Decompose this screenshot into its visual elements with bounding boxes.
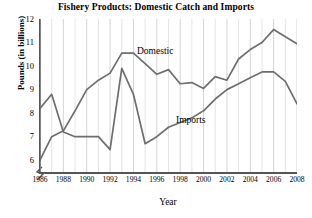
y-tick-label: 6 — [12, 156, 34, 165]
y-tick-label: 11 — [12, 38, 34, 47]
series-label-domestic: Domestic — [137, 46, 173, 56]
y-tick-label: 12 — [12, 15, 34, 24]
x-axis-title: Year — [39, 197, 297, 207]
plot-svg — [40, 19, 297, 172]
x-tick-label: 2004 — [237, 176, 263, 184]
chart-title: Fishery Products: Domestic Catch and Imp… — [0, 2, 312, 12]
x-tick-label: 1996 — [144, 176, 170, 184]
y-tick-label: 8 — [12, 109, 34, 118]
y-tick-label: 9 — [12, 85, 34, 94]
plot-area — [40, 19, 297, 172]
x-tick-label: 1988 — [50, 176, 76, 184]
x-tick-label: 1986 — [27, 176, 53, 184]
y-tick-label: 10 — [12, 62, 34, 71]
x-tick-label: 2008 — [284, 176, 310, 184]
y-tick-label: 7 — [12, 132, 34, 141]
x-tick-label: 2000 — [191, 176, 217, 184]
series-label-imports: Imports — [176, 115, 206, 125]
x-tick-label: 2006 — [261, 176, 287, 184]
x-tick-label: 1990 — [74, 176, 100, 184]
x-tick-label: 2002 — [214, 176, 240, 184]
x-tick-label: 1994 — [120, 176, 146, 184]
x-axis-line — [39, 172, 297, 174]
gridlines — [40, 19, 297, 172]
x-tick-label: 1998 — [167, 176, 193, 184]
chart-figure: Fishery Products: Domestic Catch and Imp… — [0, 0, 312, 218]
x-tick-label: 1992 — [97, 176, 123, 184]
